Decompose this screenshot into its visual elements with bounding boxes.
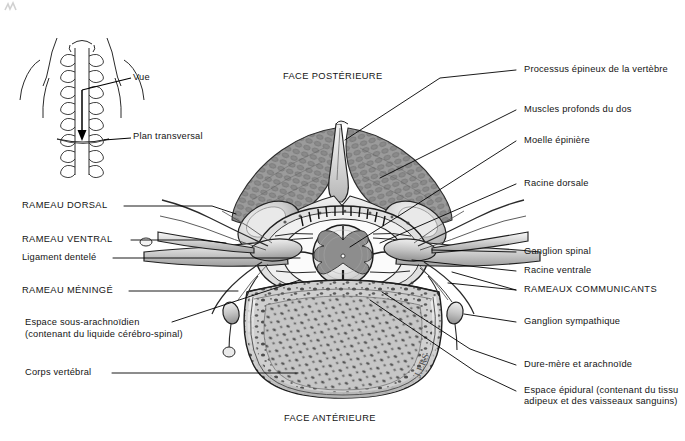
dorsal-roots xyxy=(275,233,411,243)
grey-matter xyxy=(314,231,372,274)
label-espace-epidural: Espace épidural (contenant du tissu xyxy=(524,385,678,397)
leader-moelle-epiniere xyxy=(350,141,516,247)
leader-rameaux-communicants-a xyxy=(452,272,516,290)
denticulate-ligament-right xyxy=(373,252,401,254)
label-ganglion-spinal: Ganglion spinal xyxy=(524,246,591,258)
inset-label-plan-transversal: Plan transversal xyxy=(133,131,203,143)
deep-back-muscle-left xyxy=(232,128,338,225)
leader-ganglion-sympathique xyxy=(464,314,516,322)
caption-face-anterieure: FACE ANTÉRIEURE xyxy=(284,413,376,425)
communicating-rami-right xyxy=(420,268,452,302)
leader-rameaux-communicants-b xyxy=(448,283,516,290)
leader-ganglion-spinal xyxy=(432,250,516,252)
label-rameaux-communicants: RAMEAUX COMMUNICANTS xyxy=(524,284,657,296)
caption-face-posterieure: FACE POSTÉRIEURE xyxy=(283,71,382,83)
spinal-cord xyxy=(313,225,373,285)
spinous-process xyxy=(329,124,349,202)
leader-muscles-profonds xyxy=(380,110,516,178)
lamina-right xyxy=(340,196,422,242)
scan-artifact-icon xyxy=(3,1,25,15)
artist-signature: J.ERS xyxy=(412,352,431,379)
ventral-roots xyxy=(276,271,410,273)
vertebral-body xyxy=(244,280,442,398)
dural-sac xyxy=(256,206,428,300)
dorsal-ramus-left xyxy=(162,200,268,246)
leader-racine-dorsale xyxy=(380,184,516,243)
sympathetic-ganglion-left xyxy=(221,301,241,326)
cancellous-bone-core xyxy=(264,296,422,390)
spinal-nerve-left xyxy=(144,240,288,266)
meningeal-ramus-left xyxy=(212,262,262,314)
subarachnoid-space xyxy=(283,219,403,291)
dural-striations xyxy=(301,205,385,305)
leader-rameau-dorsal xyxy=(124,206,236,214)
vertebra-cross-section: J.ERS xyxy=(140,121,540,398)
label-moelle-epiniere: Moelle épinière xyxy=(524,135,590,147)
label-racine-ventrale: Racine ventrale xyxy=(524,265,591,277)
ventral-ramus-right xyxy=(432,232,528,253)
dorsal-ramus-right xyxy=(418,200,524,246)
leader-lines xyxy=(112,70,516,391)
label-corps-vertebral: Corps vertébral xyxy=(25,367,91,379)
leader-dure-mere xyxy=(382,292,516,365)
label-ligament-dentele: Ligament dentelé xyxy=(22,252,96,264)
inset-label-vue: Vue xyxy=(133,72,150,84)
label-espace-sous-arachnoidien-note: (contenant du liquide cérébro-spinal) xyxy=(25,329,183,341)
leader-espace-sous-arach xyxy=(172,280,300,322)
spinal-nerve-right xyxy=(396,240,540,266)
denticulate-ligament-left xyxy=(285,252,313,254)
ventral-ramus-left xyxy=(158,232,254,253)
label-espace-sous-arachnoidien: Espace sous-arachnoïdien xyxy=(25,317,140,329)
label-racine-dorsale: Racine dorsale xyxy=(524,178,589,190)
label-espace-epidural-note: adipeux et des vaisseaux sanguins) xyxy=(524,396,678,408)
spinal-ganglion-left xyxy=(249,237,302,263)
spinal-ganglion-right xyxy=(383,237,436,263)
epidural-fat-stipple xyxy=(279,210,414,301)
label-dure-mere: Dure-mère et arachnoïde xyxy=(524,359,632,371)
label-muscles-profonds: Muscles profonds du dos xyxy=(524,104,632,116)
leader-racine-ventrale xyxy=(412,260,516,271)
facet-left xyxy=(230,191,309,261)
label-rameau-dorsal: RAMEAU DORSAL xyxy=(22,200,107,212)
meningeal-ramus-right xyxy=(424,262,474,314)
anatomical-figure: J.ERS Vue Plan transversal xyxy=(0,0,685,441)
lamina-left xyxy=(262,196,344,242)
deep-back-muscle-right xyxy=(346,128,452,225)
leader-espace-epidural xyxy=(370,300,516,391)
facet-right xyxy=(376,191,455,261)
inset-neck-drawing xyxy=(20,38,144,178)
sympathetic-ganglion-right xyxy=(445,301,465,326)
leader-rameau-ventral xyxy=(131,240,226,243)
label-rameau-ventral: RAMEAU VENTRAL xyxy=(22,234,112,246)
label-rameau-meninge: RAMEAU MÉNINGÉ xyxy=(22,285,113,297)
label-ganglion-sympathique: Ganglion sympathique xyxy=(524,316,620,328)
label-processus-epineux: Processus épineux de la vertèbre xyxy=(524,64,668,76)
